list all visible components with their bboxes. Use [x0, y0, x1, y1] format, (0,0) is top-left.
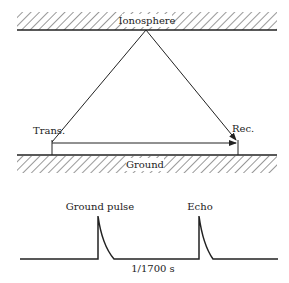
ionosphere-label: Ionosphere	[118, 15, 175, 26]
transmitter-label: Trans.	[33, 125, 65, 136]
ground-label: Ground	[126, 159, 165, 170]
pulse-trace	[20, 216, 278, 259]
ground-layer: Ground	[17, 155, 277, 173]
ionosphere-layer: Ionosphere	[17, 12, 277, 30]
echo-label: Echo	[187, 201, 212, 212]
receiver-label: Rec.	[232, 123, 254, 134]
sky-wave-path	[52, 30, 236, 142]
ionosphere-echo-diagram: Ionosphere Trans. Rec. Ground Ground pul…	[0, 0, 289, 283]
ground-pulse-label: Ground pulse	[66, 201, 134, 212]
time-interval-label: 1/1700 s	[131, 263, 175, 274]
